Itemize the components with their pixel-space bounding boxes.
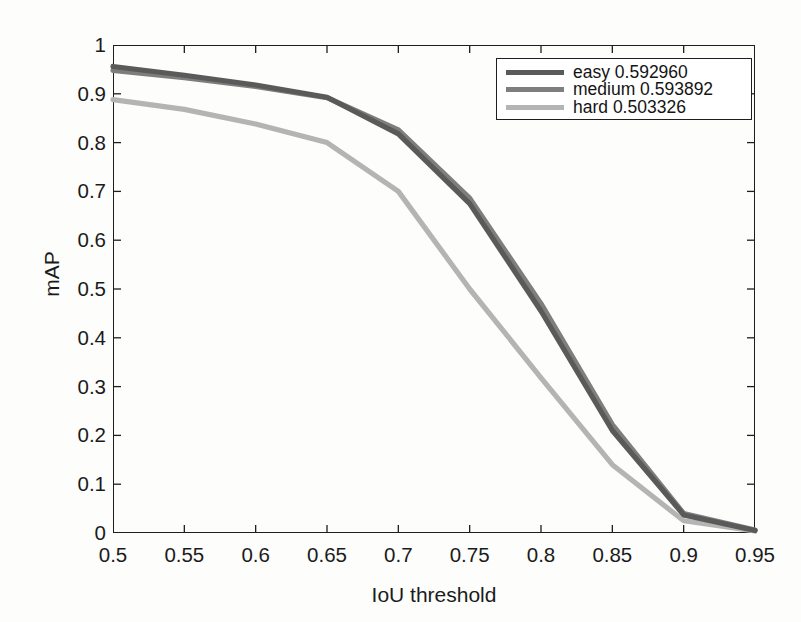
x-tick-label: 0.75 (450, 545, 490, 566)
x-tick-label: 0.9 (669, 545, 698, 566)
x-axis-tick-labels: 0.50.550.60.650.70.750.80.850.90.95 (0, 545, 801, 575)
series-line (113, 66, 755, 530)
legend-item: medium 0.593892 (506, 81, 743, 98)
series-line (113, 70, 755, 530)
x-tick-label: 0.85 (592, 545, 632, 566)
y-tick-label: 0.2 (44, 425, 106, 446)
data-series-group (113, 66, 755, 531)
y-tick-label: 0 (44, 523, 106, 544)
y-tick-label: 0.9 (44, 84, 106, 105)
x-tick-label: 0.95 (735, 545, 775, 566)
x-tick-label: 0.7 (384, 545, 413, 566)
y-axis-title: mAP (40, 214, 64, 334)
legend-item: hard 0.503326 (506, 99, 743, 116)
chart-figure: 10.90.80.70.60.50.40.30.20.10 0.50.550.6… (0, 0, 801, 622)
y-tick-label: 0.3 (44, 376, 106, 397)
x-axis-title: IoU threshold (113, 583, 755, 607)
legend-label-hard: hard 0.503326 (573, 99, 686, 117)
x-tick-label: 0.55 (164, 545, 204, 566)
y-tick-label: 0.1 (44, 474, 106, 495)
x-tick-label: 0.5 (99, 545, 128, 566)
chart-legend: easy 0.592960 medium 0.593892 hard 0.503… (496, 58, 752, 120)
legend-color-swatch-medium (506, 87, 564, 92)
legend-color-swatch-hard (506, 105, 564, 110)
y-tick-label: 1 (44, 35, 106, 56)
legend-color-swatch-easy (506, 70, 564, 75)
x-tick-label: 0.8 (527, 545, 556, 566)
y-tick-label: 0.7 (44, 181, 106, 202)
x-tick-label: 0.65 (307, 545, 347, 566)
x-tick-label: 0.6 (241, 545, 270, 566)
y-tick-label: 0.8 (44, 132, 106, 153)
